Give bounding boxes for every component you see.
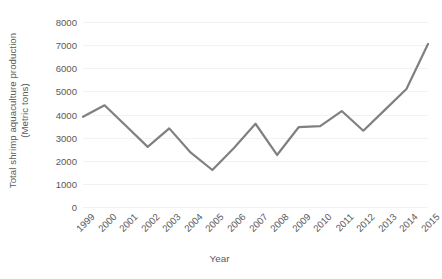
- series-line-svg: [83, 22, 428, 207]
- y-axis-tick-label: 5000: [33, 86, 77, 97]
- y-axis-title-line-2: (Metric tons): [19, 83, 31, 138]
- y-axis-tick-label: 4000: [33, 109, 77, 120]
- x-axis-title: Year: [0, 253, 439, 264]
- y-axis-tick-label: 1000: [33, 178, 77, 189]
- x-axis-tick-labels: 1999200020012002200320042005200620072008…: [83, 207, 428, 252]
- y-axis-tick-label: 0: [33, 202, 77, 213]
- y-axis-tick-label: 8000: [33, 17, 77, 28]
- series-line-total-shrimp-aquaculture-production: [83, 44, 428, 170]
- y-axis-tick-label: 6000: [33, 63, 77, 74]
- y-axis-tick-label: 7000: [33, 40, 77, 51]
- y-axis-title-line-1: Total shrimp aquaculture production: [7, 33, 19, 189]
- y-axis-tick-labels: 010002000300040005000600070008000: [31, 22, 77, 207]
- y-axis-tick-label: 2000: [33, 155, 77, 166]
- y-axis-tick-label: 3000: [33, 132, 77, 143]
- plot-area: [83, 22, 428, 207]
